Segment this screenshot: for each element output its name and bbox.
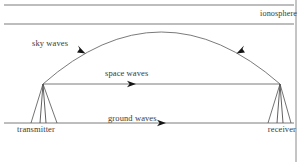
sky-wave-arrow-inbound-icon: [237, 46, 246, 54]
label-transmitter: transmitter: [17, 124, 55, 134]
radio-wave-propagation-diagram: ionosphere sky waves space waves ground …: [0, 0, 305, 162]
label-space-waves: space waves: [105, 68, 148, 78]
transmitter-tower-icon: [31, 84, 57, 123]
sky-wave-arrow-outbound-icon: [77, 46, 86, 54]
label-sky-waves: sky waves: [32, 38, 68, 48]
sky-wave-path: [43, 32, 280, 84]
label-receiver: receiver: [268, 124, 296, 134]
diagram-canvas: [0, 0, 305, 162]
label-ionosphere: ionosphere: [260, 9, 297, 18]
label-ground-waves: ground waves: [108, 113, 157, 123]
receiver-tower-icon: [268, 84, 291, 123]
